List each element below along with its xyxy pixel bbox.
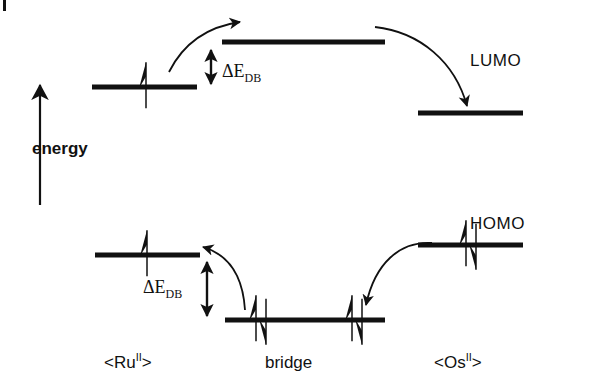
- transfer-arrows-group: [169, 22, 467, 310]
- species-label-ruthenium: <RuII>: [104, 352, 152, 371]
- species-label-bridge: bridge: [265, 352, 312, 371]
- lumo-label: LUMO: [470, 52, 521, 69]
- homo-label: HOMO: [470, 215, 525, 232]
- delta-e-subscript-upper: DB: [245, 71, 262, 85]
- species-tail-osmium: >: [472, 353, 482, 372]
- delta-e-text-upper: ΔE: [222, 61, 245, 81]
- delta-e-db-label-lower: ΔEDB: [143, 278, 182, 300]
- delta-e-db-label-upper: ΔEDB: [222, 62, 261, 84]
- species-text-ruthenium: <Ru: [104, 353, 136, 372]
- energy-level-ru-lumo: [92, 62, 197, 108]
- energy-level-bridge-homo: [225, 295, 385, 345]
- delta-e-text-lower: ΔE: [143, 277, 166, 297]
- mo-energy-diagram: energy LUMO HOMO ΔEDB ΔEDB <RuII> bridge…: [0, 0, 602, 387]
- gap-arrow-group: [207, 50, 211, 316]
- energy-axis-label: energy: [32, 140, 88, 157]
- electron-transfer-bridge-to-os: [375, 27, 467, 106]
- hole-transfer-bridge-to-ru: [203, 247, 245, 310]
- delta-e-subscript-lower: DB: [166, 287, 183, 301]
- species-tail-ruthenium: >: [142, 353, 152, 372]
- species-label-osmium: <OsII>: [434, 352, 482, 371]
- hole-transfer-os-to-bridge: [366, 243, 432, 305]
- species-text-bridge: bridge: [265, 353, 312, 372]
- species-text-osmium: <Os: [434, 353, 466, 372]
- energy-level-ru-homo: [95, 230, 200, 276]
